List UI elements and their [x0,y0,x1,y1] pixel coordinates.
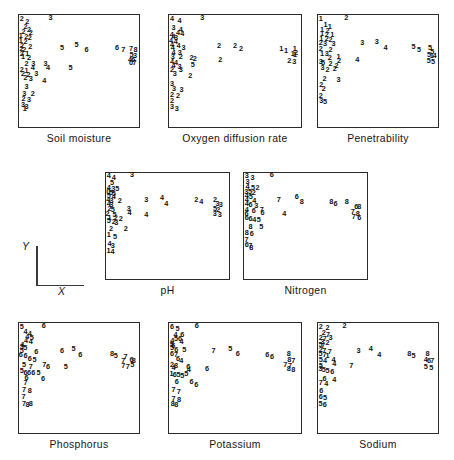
data-point: 2 [325,339,329,346]
data-point: 8 [287,366,291,373]
data-point: 6 [334,201,338,208]
data-point: 2 [218,56,222,63]
axis-key-y-line [36,246,38,286]
data-point: 7 [352,213,356,220]
data-point: 2 [119,215,123,222]
data-point: 3 [173,70,177,77]
panel-label-oxygen-diffusion-rate: Oxygen diffusion rate [168,133,302,144]
data-point: 3 [321,65,325,72]
data-point: 6 [115,45,119,52]
data-point: 5 [323,98,327,105]
data-point: 5 [184,371,188,378]
panel-potassium: 6564656445656575666887778867642846461655… [168,322,302,434]
panel-sodium: 2222727332572773448584675557154447535566… [317,322,439,434]
panel-plot-area-nitrogen: 3363452352454476886868787646346764666458… [243,172,368,280]
data-point: 4 [180,30,184,37]
data-point: 7 [349,362,353,369]
data-point: 3 [213,210,217,217]
panel-label-soil-moisture: Soil moisture [18,133,140,144]
data-point: 4 [170,15,174,22]
data-point: 3 [179,66,183,73]
data-point: 4 [111,248,115,255]
data-point: 5 [113,234,117,241]
data-point: 8 [249,245,253,252]
data-point: 3 [130,172,134,179]
data-point: 6 [194,381,198,388]
data-point: 1 [279,46,283,53]
data-point: 5 [72,345,76,352]
data-point: 6 [265,351,269,358]
data-point: 6 [46,364,50,371]
data-point: 5 [228,345,232,352]
data-point: 2 [31,91,35,98]
data-point: 7 [171,386,175,393]
panel-plot-area-phosphorus: 5644454443556656857768757666557765566656… [18,322,140,434]
data-point: 4 [160,194,164,201]
data-point: 7 [133,60,137,67]
data-point: 3 [250,174,254,181]
data-point: 5 [130,362,134,369]
panel-label-sodium: Sodium [317,439,439,450]
data-point: 3 [292,58,296,65]
data-point: 3 [357,347,361,354]
panel-label-phosphorus: Phosphorus [18,439,140,450]
panel-ph: 4435435055544323442423352334325342541225… [105,172,230,280]
data-point: 5 [60,45,64,52]
panel-penetrability: 1211121211222333345555514552213212435223… [317,14,439,128]
data-point: 6 [195,322,199,329]
data-point: 3 [336,76,340,83]
data-point: 8 [28,387,32,394]
data-point: 6 [270,353,274,360]
data-point: 6 [84,47,88,54]
data-point: 3 [144,196,148,203]
data-point: 5 [37,369,41,376]
panel-label-potassium: Potassium [168,439,302,450]
data-point: 6 [260,210,264,217]
data-point: 7 [126,363,130,370]
data-point: 4 [383,44,387,51]
data-point: 4 [323,358,327,365]
data-point: 5 [75,42,79,49]
data-point: 2 [217,42,221,49]
data-point: 6 [270,172,274,179]
panel-soil-moisture: 2232222122122222556677853460721122334452… [18,14,140,128]
data-point: 6 [19,351,23,358]
axis-key-y-label: Y [22,240,29,252]
data-point: 4 [46,64,50,71]
data-point: 1 [23,106,27,113]
panel-plot-area-ph: 4435435055544323442423352334325342541225… [105,172,230,280]
panel-label-ph: pH [105,285,230,296]
data-point: 2 [194,196,198,203]
data-point: 3 [323,41,327,48]
panel-label-penetrability: Penetrability [317,133,439,144]
data-point: 2 [344,14,348,21]
data-point: 7 [121,363,125,370]
data-point: 6 [42,322,46,329]
data-point: 6 [250,230,254,237]
data-point: 4 [199,198,203,205]
data-point: 4 [377,351,381,358]
panel-plot-area-potassium: 6564656445656575666887778867642846461655… [168,322,302,434]
data-point: 4 [29,338,33,345]
panel-label-nitrogen: Nitrogen [243,285,368,296]
data-point: 5 [431,58,435,65]
data-point: 5 [411,43,415,50]
data-point: 6 [323,401,327,408]
panel-plot-area-sodium: 2222727332572773448584675557154447535566… [317,322,439,434]
data-point: 4 [127,210,131,217]
data-point: 6 [236,351,240,358]
data-point: 2 [255,185,259,192]
data-point: 6 [78,351,82,358]
data-point: 3 [34,70,38,77]
data-point: 4 [42,77,46,84]
data-point: 2 [188,72,192,79]
data-point: 4 [355,56,359,63]
data-point: 4 [144,212,148,219]
data-point: 2 [333,65,337,72]
panel-phosphorus: 5644454443556656857768757666557765566656… [18,322,140,434]
data-point: 2 [179,54,183,61]
data-point: 7 [121,46,125,53]
panel-nitrogen: 3363452352454476886868787646346764666458… [243,172,368,280]
data-point: 4 [164,201,168,208]
data-point: 8 [329,198,333,205]
